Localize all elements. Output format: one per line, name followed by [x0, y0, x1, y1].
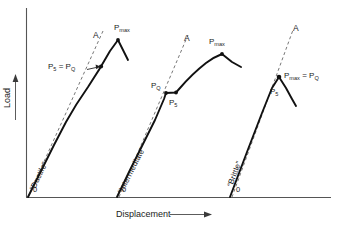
label-pmax-intermediate: Pmax — [209, 38, 225, 47]
pointer-p5-pq-ductile — [87, 65, 101, 70]
label-pmax-pq-brittle: Pmax = PQ — [284, 72, 319, 81]
secant-label-a-intermediate: A — [184, 34, 190, 43]
y-axis-label: Load — [3, 88, 12, 108]
load-displacement-figure: Load Displacement 0 “Ductile” A P5 = PQ … — [0, 0, 341, 228]
marker-pmax-pq-brittle — [277, 75, 282, 80]
pmaxq-b-equals: = — [300, 71, 309, 80]
origin-label-brittle: 0 — [236, 186, 240, 194]
chart-canvas — [0, 0, 341, 228]
p5-pq-sub2: Q — [71, 66, 75, 72]
secant-label-a-brittle: A — [293, 24, 299, 33]
pmaxq-b-sub2: Q — [314, 75, 318, 81]
label-p5-brittle: P5 — [270, 88, 278, 97]
curve-intermediate-group — [117, 35, 241, 197]
label-pmax-ductile: Pmax — [114, 24, 130, 33]
pmax-d-sub: max — [119, 27, 130, 33]
curve-intermediate — [117, 54, 241, 197]
pq-i-sub: Q — [156, 85, 160, 91]
p5-i-sub: 5 — [174, 102, 177, 108]
p5-pq-equals: = — [56, 62, 65, 71]
x-axis-label: Displacement — [116, 210, 171, 219]
x-axis-arrow-icon — [170, 212, 212, 218]
label-p5-pq-ductile: P5 = PQ — [48, 63, 75, 72]
curve-brittle — [230, 77, 296, 197]
marker-p5-intermediate — [174, 91, 178, 95]
label-p5-intermediate: P5 — [169, 99, 177, 108]
label-pq-intermediate: PQ — [151, 82, 161, 91]
secant-label-a-ductile: A — [93, 31, 99, 40]
pmax-i-sub: max — [214, 41, 225, 47]
marker-pmax-ductile — [116, 38, 120, 42]
axes-group — [26, 8, 331, 198]
p5-b-sub: 5 — [275, 91, 278, 97]
marker-pmax-intermediate — [220, 52, 224, 56]
pmaxq-b-sub1: max — [289, 75, 300, 81]
marker-pq-intermediate — [164, 91, 168, 95]
y-axis-arrow-icon — [13, 74, 19, 120]
